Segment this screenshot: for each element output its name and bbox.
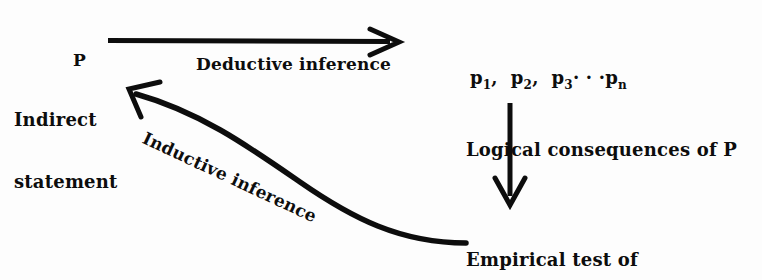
comma-1: , xyxy=(491,67,497,88)
node-empirical-test: Empirical test of p1, p2, p3, etc. xyxy=(466,209,638,280)
p3-base: p xyxy=(552,67,565,88)
premise-line-2: statement xyxy=(14,170,139,194)
ellipsis-dots: · · · xyxy=(573,67,605,88)
p3-subscript: 3 xyxy=(564,78,573,92)
consequences-proposition-list: p1, p2, p3· · ·pn xyxy=(466,64,737,99)
pn-base: p xyxy=(605,67,618,88)
premise-line-1: Indirect xyxy=(14,108,139,132)
premise-symbol: P xyxy=(14,50,139,70)
comma-2: , xyxy=(532,67,538,88)
pn-subscript: n xyxy=(618,78,627,92)
p1-base: p xyxy=(470,67,483,88)
p2-subscript: 2 xyxy=(524,78,533,92)
consequences-caption: Logical consequences of P xyxy=(466,137,737,163)
node-indirect-statement: P Indirect statement xyxy=(14,12,139,232)
deductive-inference-label: Deductive inference xyxy=(196,54,391,74)
p2-base: p xyxy=(511,67,524,88)
node-logical-consequences: p1, p2, p3· · ·pn Logical consequences o… xyxy=(466,26,737,201)
deductive-arrow xyxy=(108,29,399,55)
empirical-line-1: Empirical test of xyxy=(466,247,638,273)
inductive-inference-label: Inductive inference xyxy=(140,128,321,226)
inference-diagram: P Indirect statement p1, p2, p3· · ·pn L… xyxy=(0,0,762,280)
